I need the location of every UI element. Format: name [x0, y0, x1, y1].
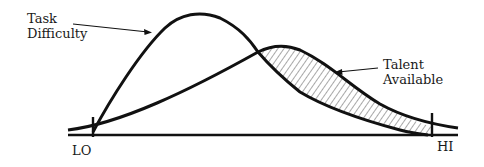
task-difficulty-label-line2: Difficulty: [27, 26, 87, 41]
axis-low-label: LO: [72, 143, 91, 158]
task-difficulty-label-line1: Task: [27, 11, 87, 26]
talent-available-label-line2: Available: [383, 72, 443, 87]
talent-available-label-line1: Talent: [383, 57, 443, 72]
talent-available-label: Talent Available: [383, 57, 443, 87]
talent-available-pointer: [338, 68, 378, 72]
task-difficulty-arrowhead-icon: [144, 29, 152, 35]
task-difficulty-label: Task Difficulty: [27, 11, 87, 41]
axis-high-label: HI: [437, 139, 453, 154]
